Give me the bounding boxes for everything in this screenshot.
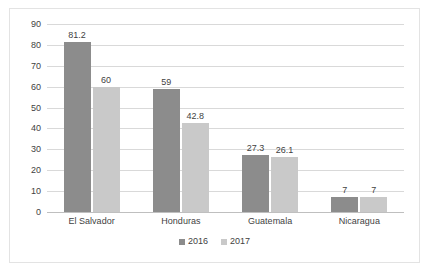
legend-item-2016[interactable]: 2016 <box>179 237 208 246</box>
chart-legend: 20162017 <box>10 237 419 246</box>
x-axis-label-el-salvador: El Salvador <box>69 216 115 226</box>
bar-rect <box>64 42 91 212</box>
x-axis-label-nicaragua: Nicaragua <box>339 216 380 226</box>
y-axis-tick-label: 90 <box>17 20 41 29</box>
bar-value-label: 26.1 <box>276 145 294 155</box>
legend-swatch-icon <box>221 239 227 245</box>
bar-rect <box>93 87 120 212</box>
gridline <box>47 212 404 213</box>
plot-area: 81.2605942.827.326.177 <box>47 24 404 212</box>
bar-group: 77 <box>331 24 387 212</box>
bar-value-label: 42.8 <box>187 111 205 121</box>
y-axis-tick-label: 80 <box>17 41 41 50</box>
bar-value-label: 7 <box>342 185 347 195</box>
legend-swatch-icon <box>179 239 185 245</box>
bar-group: 27.326.1 <box>242 24 298 212</box>
x-axis-label-honduras: Honduras <box>161 216 200 226</box>
bar-rect <box>271 157 298 212</box>
bar-group: 81.260 <box>64 24 120 212</box>
y-axis-tick-label: 50 <box>17 104 41 113</box>
bar-rect <box>182 123 209 212</box>
legend-label: 2017 <box>230 237 250 246</box>
y-axis-tick-label: 0 <box>17 208 41 217</box>
y-axis-tick-label: 30 <box>17 145 41 154</box>
bar-rect <box>360 197 387 212</box>
y-axis-tick-label: 70 <box>17 62 41 71</box>
bar-rect <box>153 89 180 212</box>
legend-label: 2016 <box>188 237 208 246</box>
chart-frame: 9080706050403020100 81.2605942.827.326.1… <box>9 8 420 263</box>
legend-item-2017[interactable]: 2017 <box>221 237 250 246</box>
bar-value-label: 81.2 <box>68 30 86 40</box>
y-axis-tick-label: 40 <box>17 124 41 133</box>
x-axis-label-guatemala: Guatemala <box>248 216 292 226</box>
bar-value-label: 59 <box>161 77 171 87</box>
y-axis-tick-label: 20 <box>17 166 41 175</box>
y-axis-tick-labels: 9080706050403020100 <box>15 24 41 212</box>
bar-group: 5942.8 <box>153 24 209 212</box>
bar-value-label: 27.3 <box>247 143 265 153</box>
bar-rect <box>242 155 269 212</box>
bar-value-label: 60 <box>101 75 111 85</box>
y-axis-tick-label: 10 <box>17 187 41 196</box>
y-axis-tick-label: 60 <box>17 83 41 92</box>
bar-rect <box>331 197 358 212</box>
bar-value-label: 7 <box>371 185 376 195</box>
x-axis-category-labels: El SalvadorHondurasGuatemalaNicaragua <box>47 216 404 232</box>
